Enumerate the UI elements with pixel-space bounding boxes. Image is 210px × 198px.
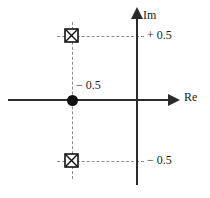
boxed-x-marker-icon-lower xyxy=(64,153,79,168)
real-axis-label: Re xyxy=(184,90,197,105)
tick-label-real-negative: − 0.5 xyxy=(76,78,101,93)
tick-label-imag-negative: − 0.5 xyxy=(147,153,172,168)
filled-dot-marker-icon xyxy=(67,95,78,106)
imaginary-axis-arrow-icon xyxy=(131,7,143,19)
real-axis-line xyxy=(8,99,171,101)
imaginary-axis-label: Im xyxy=(143,8,156,23)
real-axis-arrow-icon xyxy=(168,94,180,106)
complex-plane-plot: Re Im + 0.5 − 0.5 − 0.5 xyxy=(0,0,210,198)
tick-label-imag-positive: + 0.5 xyxy=(147,28,172,43)
boxed-x-marker-icon-upper xyxy=(64,28,79,43)
imaginary-axis-line xyxy=(136,18,138,185)
